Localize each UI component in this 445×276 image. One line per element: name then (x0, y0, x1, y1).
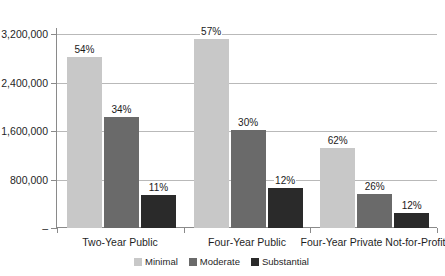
x-tick-1 (184, 228, 185, 233)
bar-two-year-public-substantial[interactable]: 11% (141, 195, 176, 228)
bar-group-two-year-public: 54% 34% 11% (57, 34, 184, 228)
bar-value-label: 57% (200, 26, 222, 37)
legend-label: Minimal (145, 256, 178, 267)
bar-value-label: 12% (401, 200, 423, 211)
bar-value-label: 54% (73, 44, 95, 55)
x-axis-label-two-year-public: Two-Year Public (82, 236, 157, 248)
bar-four-year-public-minimal[interactable]: 57% (194, 39, 229, 228)
bar-two-year-public-moderate[interactable]: 34% (104, 117, 139, 228)
bar-four-year-private-substantial[interactable]: 12% (394, 213, 429, 228)
bar-four-year-public-substantial[interactable]: 12% (268, 188, 303, 228)
x-axis-label-four-year-public: Four-Year Public (208, 236, 286, 248)
x-tick-2 (310, 228, 311, 233)
y-axis-label-zero: – (0, 222, 48, 234)
legend-label: Moderate (200, 256, 240, 267)
bar-two-year-public-minimal[interactable]: 54% (67, 57, 102, 228)
legend-item-moderate[interactable]: Moderate (189, 256, 240, 267)
x-axis-label-four-year-private: Four-Year Private Not-for-Profit (301, 236, 445, 248)
bar-value-label: 30% (237, 117, 259, 128)
y-axis-label-2400000: 2,400,000 (0, 77, 48, 89)
bar-four-year-public-moderate[interactable]: 30% (231, 130, 266, 228)
bar-value-label: 62% (327, 135, 349, 146)
bar-four-year-private-minimal[interactable]: 62% (320, 148, 355, 228)
bar-four-year-private-moderate[interactable]: 26% (357, 194, 392, 228)
legend-swatch-icon (189, 258, 197, 266)
legend-item-substantial[interactable]: Substantial (251, 256, 309, 267)
y-axis-label-800000: 800,000 (0, 174, 48, 186)
bar-value-label: 12% (274, 175, 296, 186)
legend-item-minimal[interactable]: Minimal (134, 256, 178, 267)
x-tick-start (57, 228, 58, 233)
bar-value-label: 26% (364, 181, 386, 192)
plot-area: 54% 34% 11% 57% 30% 12% 62% (57, 34, 437, 228)
y-axis-label-1600000: 1,600,000 (0, 125, 48, 137)
chart-legend: Minimal Moderate Substantial (0, 256, 443, 267)
legend-swatch-icon (134, 258, 142, 266)
y-axis-label-3200000: 3,200,000 (0, 28, 48, 40)
x-tick-end (437, 228, 438, 233)
legend-swatch-icon (251, 258, 259, 266)
bar-value-label: 34% (110, 104, 132, 115)
bar-group-four-year-public: 57% 30% 12% (184, 34, 311, 228)
bar-group-four-year-private: 62% 26% 12% (310, 34, 437, 228)
legend-label: Substantial (262, 256, 309, 267)
bar-value-label: 11% (148, 182, 169, 193)
